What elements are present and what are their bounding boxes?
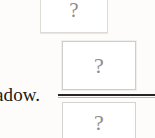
question-mark-icon: ? bbox=[94, 112, 104, 134]
horizontal-rule bbox=[58, 94, 155, 96]
image-placeholder-top[interactable]: ? bbox=[40, 0, 108, 33]
body-text-fragment: adow. bbox=[0, 84, 57, 106]
placeholder-top-shadow-line bbox=[40, 33, 108, 34]
question-mark-icon: ? bbox=[69, 0, 78, 21]
document-page: ? ? ? adow. bbox=[0, 0, 155, 138]
image-placeholder-middle[interactable]: ? bbox=[62, 41, 136, 90]
horizontal-rule-secondary bbox=[58, 97, 155, 98]
image-placeholder-bottom[interactable]: ? bbox=[62, 102, 136, 138]
question-mark-icon: ? bbox=[94, 55, 104, 77]
